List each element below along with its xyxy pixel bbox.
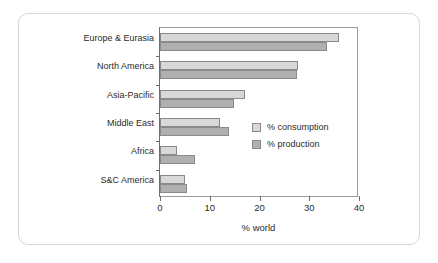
category-label: North America	[97, 61, 154, 72]
bar-group: S&C America	[160, 170, 357, 198]
legend-label-production: % production	[267, 139, 320, 149]
y-axis-tick	[156, 113, 160, 114]
x-axis-tick-label: 30	[304, 202, 315, 213]
bar-production	[160, 184, 187, 193]
bar-consumption	[160, 118, 220, 127]
x-axis-tick	[260, 196, 261, 201]
bar-group: Asia-Pacific	[160, 85, 357, 113]
x-axis-tick	[359, 196, 360, 201]
x-axis-tick	[309, 196, 310, 201]
y-axis-tick	[156, 141, 160, 142]
bar-consumption	[160, 33, 339, 42]
category-label: Africa	[131, 146, 154, 157]
category-label: Middle East	[107, 118, 154, 129]
x-axis-tick	[210, 196, 211, 201]
y-axis-tick	[156, 56, 160, 57]
y-axis-tick	[156, 85, 160, 86]
bar-group: Europe & Eurasia	[160, 28, 357, 56]
bar-production	[160, 99, 234, 108]
bar-production	[160, 155, 195, 164]
legend-item-consumption: % consumption	[252, 122, 329, 132]
bar-production	[160, 127, 229, 136]
bar-consumption	[160, 175, 185, 184]
x-axis-tick-label: 0	[157, 202, 162, 213]
bar-group: North America	[160, 56, 357, 84]
bar-consumption	[160, 146, 177, 155]
category-label: Europe & Eurasia	[83, 33, 154, 44]
legend-swatch-production	[252, 140, 261, 149]
chart-legend: % consumption % production	[252, 122, 329, 156]
legend-item-production: % production	[252, 139, 329, 149]
bar-production	[160, 70, 297, 79]
x-axis-tick	[160, 196, 161, 201]
x-axis-tick-label: 40	[354, 202, 365, 213]
legend-label-consumption: % consumption	[267, 122, 329, 132]
legend-swatch-consumption	[252, 123, 261, 132]
category-label: Asia-Pacific	[107, 90, 154, 101]
x-axis-title: % world	[159, 222, 358, 233]
bar-consumption	[160, 61, 298, 70]
y-axis-tick	[156, 170, 160, 171]
x-axis-tick-label: 10	[204, 202, 215, 213]
x-axis-tick-label: 20	[254, 202, 265, 213]
category-label: S&C America	[100, 175, 154, 186]
bar-consumption	[160, 90, 245, 99]
bar-production	[160, 42, 327, 51]
bar-chart: Europe & EurasiaNorth AmericaAsia-Pacifi…	[0, 0, 438, 263]
plot-area: Europe & EurasiaNorth AmericaAsia-Pacifi…	[159, 27, 358, 197]
